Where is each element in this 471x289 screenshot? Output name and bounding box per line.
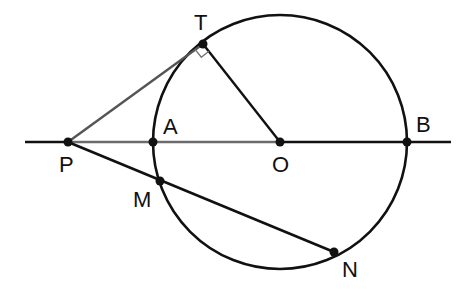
point-T: [199, 40, 208, 49]
point-O: [276, 138, 285, 147]
point-B: [403, 138, 412, 147]
label-O: O: [272, 152, 289, 177]
label-B: B: [416, 112, 431, 137]
geometry-diagram: T P A O B M N: [0, 0, 471, 289]
label-T: T: [194, 10, 207, 35]
label-P: P: [59, 152, 74, 177]
tangent-PT: [68, 44, 203, 142]
points: [64, 40, 412, 257]
point-N: [330, 248, 339, 257]
point-M: [156, 177, 165, 186]
radius-OT: [203, 44, 280, 142]
label-N: N: [342, 257, 358, 282]
label-M: M: [133, 187, 151, 212]
point-A: [149, 138, 158, 147]
secant-PN: [68, 142, 334, 252]
point-P: [64, 138, 73, 147]
label-A: A: [163, 114, 178, 139]
